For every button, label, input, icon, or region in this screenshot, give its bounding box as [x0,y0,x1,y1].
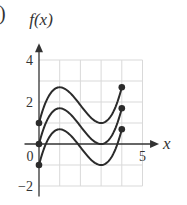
x-axis-arrow-icon [150,140,159,148]
endpoint-upper [119,84,126,91]
endpoint-lower [36,162,43,169]
endpoint-lower [119,126,126,133]
y-tick-label: −2 [18,179,33,194]
panel-label: ) [0,2,6,25]
axes [25,43,160,196]
endpoint-middle [36,141,43,148]
y-tick-label: 2 [26,95,33,110]
x-tick-label: 5 [139,149,146,164]
y-tick-label: 4 [26,53,33,68]
function-graph: ) 42−205 f(x) x [0,0,187,205]
y-axis-label: f(x) [29,10,53,29]
endpoint-upper [36,120,43,127]
y-axis-arrow-icon [35,43,43,52]
grid [39,60,143,186]
x-axis-label: x [162,134,171,153]
x-tick-label: 0 [27,149,34,164]
endpoint-middle [119,105,126,112]
